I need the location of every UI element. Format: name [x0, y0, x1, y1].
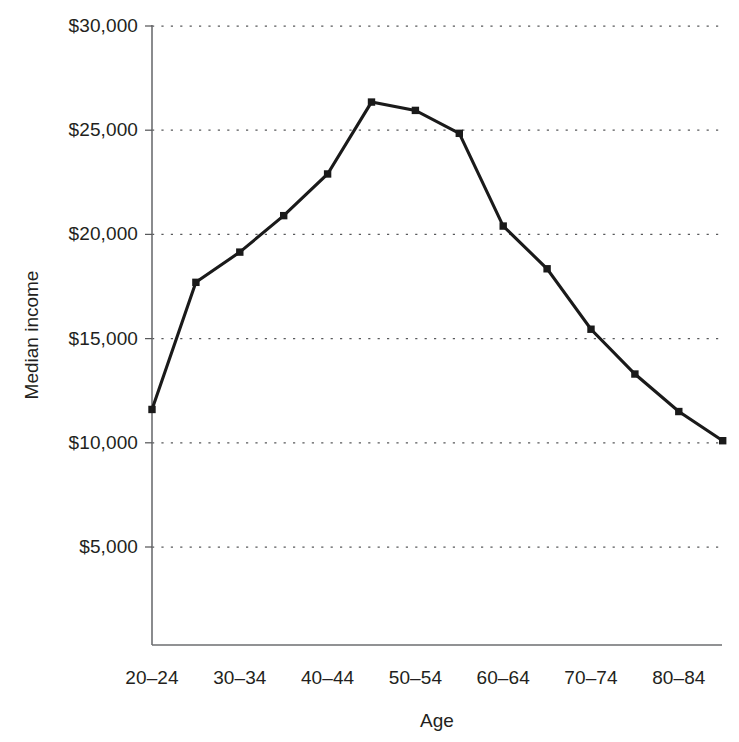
- data-point-markers: [148, 98, 726, 444]
- data-point-marker: [631, 370, 638, 377]
- x-tick-label: 50–54: [389, 667, 442, 689]
- data-point-marker: [456, 130, 463, 137]
- data-point-marker: [324, 170, 331, 177]
- y-tick-marks: [145, 26, 152, 547]
- data-point-marker: [719, 437, 726, 444]
- data-point-marker: [236, 248, 243, 255]
- gridlines: [152, 26, 722, 547]
- line-chart: $5,000$10,000$15,000$20,000$25,000$30,00…: [0, 0, 739, 742]
- y-tick-label: $10,000: [69, 432, 138, 454]
- y-tick-label: $5,000: [79, 536, 138, 558]
- x-tick-label: 20–24: [125, 667, 178, 689]
- x-tick-label: 40–44: [301, 667, 354, 689]
- data-point-marker: [192, 279, 199, 286]
- x-tick-label: 70–74: [564, 667, 617, 689]
- axis-lines: [152, 25, 722, 645]
- x-tick-label: 60–64: [477, 667, 530, 689]
- x-tick-label: 30–34: [213, 667, 266, 689]
- x-axis-title: Age: [420, 710, 454, 732]
- data-point-marker: [412, 107, 419, 114]
- data-point-marker: [587, 326, 594, 333]
- data-point-marker: [368, 98, 375, 105]
- x-tick-label: 80–84: [652, 667, 705, 689]
- data-point-marker: [543, 265, 550, 272]
- data-series-line: [152, 102, 723, 441]
- data-point-marker: [148, 406, 155, 413]
- data-point-marker: [675, 408, 682, 415]
- data-point-marker: [500, 222, 507, 229]
- y-tick-label: $30,000: [69, 15, 138, 37]
- plot-area: [0, 0, 739, 742]
- y-tick-label: $20,000: [69, 223, 138, 245]
- data-point-marker: [280, 212, 287, 219]
- y-tick-label: $25,000: [69, 119, 138, 141]
- y-axis-title: Median income: [21, 271, 43, 400]
- y-tick-label: $15,000: [69, 328, 138, 350]
